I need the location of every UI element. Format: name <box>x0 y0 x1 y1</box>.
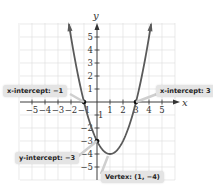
y-tick-label: 5 <box>88 32 93 42</box>
x-tick-label: 4 <box>146 105 151 115</box>
curve-arrow-left-icon <box>68 22 73 31</box>
curve-arrow-right-icon <box>148 22 153 31</box>
x-axis-arrow-icon <box>173 100 180 105</box>
x-tick-label: −3 <box>52 105 65 115</box>
x-tick-label: −1 <box>78 105 91 115</box>
x-tick-label: 5 <box>159 105 164 115</box>
x-tick-label: −4 <box>39 105 52 115</box>
callout-x-intercept-right: x-intercept: 3 <box>156 85 213 97</box>
callout-y-intercept: y-intercept: −3 <box>15 152 79 164</box>
x-tick-label: 2 <box>120 105 125 115</box>
y-tick-label: 4 <box>88 45 93 55</box>
x-tick-label: −2 <box>65 105 78 115</box>
callout-vertex: Vertex: (1, −4) <box>101 171 164 183</box>
x-tick-label: −5 <box>26 105 39 115</box>
y-tick-label: −5 <box>80 162 93 172</box>
x-axis-label: x <box>182 97 188 108</box>
y-tick-label: 3 <box>88 58 93 68</box>
callout-x-intercept-left: x-intercept: −1 <box>3 85 67 97</box>
y-tick-label: 1 <box>98 110 103 120</box>
leader-line <box>136 94 157 102</box>
y-axis-label: y <box>92 10 99 21</box>
y-tick-label: 1 <box>88 84 93 94</box>
y-tick-label: 2 <box>88 71 93 81</box>
x-tick-label: 1 <box>107 105 112 115</box>
